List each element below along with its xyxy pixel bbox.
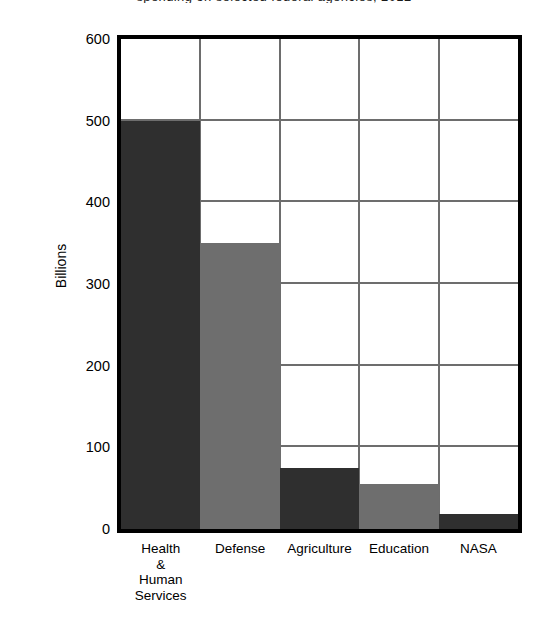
bar-nasa[interactable] bbox=[439, 514, 518, 529]
x-tick-label-line: NASA bbox=[429, 541, 527, 557]
bar-health-human-services[interactable] bbox=[121, 121, 200, 529]
plot-inner bbox=[121, 39, 518, 529]
gridline-vertical bbox=[438, 39, 440, 529]
plot-area bbox=[117, 35, 522, 533]
x-tick-label-line: Human bbox=[111, 572, 209, 588]
y-tick-label-400: 400 bbox=[48, 195, 110, 209]
y-tick-label-200: 200 bbox=[48, 359, 110, 373]
y-axis-tick-labels: 0100200300400500600 bbox=[46, 0, 110, 629]
bar-chart-figure: spending on selected federal agencies, 2… bbox=[0, 0, 548, 629]
x-tick-label-line: & bbox=[111, 557, 209, 573]
y-tick-label-500: 500 bbox=[48, 114, 110, 128]
x-tick-label-line: Services bbox=[111, 588, 209, 604]
y-tick-label-300: 300 bbox=[48, 277, 110, 291]
bar-agriculture[interactable] bbox=[280, 468, 359, 529]
x-axis-tick-labels: Health&HumanServicesDefenseAgricultureEd… bbox=[121, 541, 518, 625]
gridline-vertical bbox=[358, 39, 360, 529]
x-tick-label-nasa: NASA bbox=[429, 541, 527, 557]
bar-defense[interactable] bbox=[200, 243, 279, 529]
y-tick-label-0: 0 bbox=[48, 522, 110, 536]
y-tick-label-600: 600 bbox=[48, 32, 110, 46]
bar-education[interactable] bbox=[359, 484, 438, 529]
y-tick-label-100: 100 bbox=[48, 440, 110, 454]
